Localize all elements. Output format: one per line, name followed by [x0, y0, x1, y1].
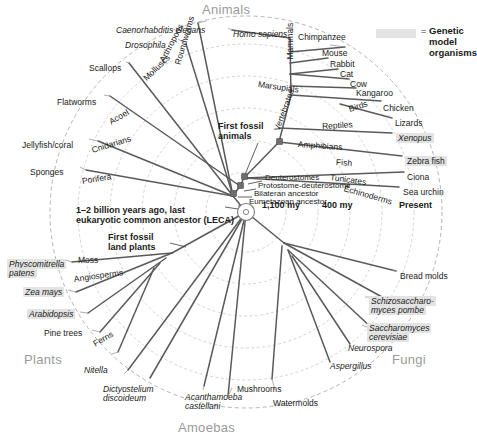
annotation-line-2: land plants — [108, 243, 156, 253]
tip-text: Flatworms — [57, 97, 96, 107]
tip-text: Arabidopsis — [27, 309, 75, 319]
tip-label-pine-trees: Pine trees — [44, 329, 82, 338]
branch-name-neurospora: Neurospora — [348, 344, 392, 353]
tip-line-1: Drosophila — [125, 41, 166, 50]
tip-text: Drosophila — [125, 40, 166, 50]
tip-line-1: Homo sapiens — [233, 30, 287, 39]
tip-text: Cat — [340, 69, 353, 79]
tip-line-1: Nitella — [84, 366, 108, 375]
tip-text: patens — [7, 268, 37, 278]
tip-label-lizards: Lizards — [395, 119, 422, 128]
tip-line-1: Ciona — [407, 173, 429, 182]
tip-label-caenorhabditis-elegans: Caenorhabditis elegans — [116, 26, 205, 35]
tip-label-physcomitrella: Physcomitrellapatens — [7, 260, 66, 278]
tip-line-2: castellani — [185, 402, 242, 411]
tip-label-scallops: Scallops — [89, 64, 121, 73]
tip-label-sponges: Sponges — [30, 168, 64, 177]
tip-line-1: Zea mays — [23, 288, 64, 297]
tip-text: Lizards — [395, 118, 422, 128]
tip-text: Mouse — [322, 48, 348, 58]
tip-text: Sponges — [30, 167, 64, 177]
legend-text: Genetic model organisms — [429, 25, 477, 59]
branch-name-mammals: Mammals — [286, 23, 295, 60]
tip-line-1: Rabbit — [330, 60, 355, 69]
time-label-present: Present — [399, 201, 432, 211]
tip-label-flatworms: Flatworms — [57, 98, 96, 107]
tip-label-jellyfish-coral: Jellyfish/coral — [22, 141, 73, 150]
tip-line-1: Lizards — [395, 119, 422, 128]
tip-line-1: Bread molds — [400, 272, 448, 281]
annotation-first-fossil-animals: First fossil animals — [218, 122, 264, 141]
tip-text: cerevisiae — [367, 332, 409, 342]
tip-label-schizosaccharo-: Schizosaccharo-myces pombe — [369, 297, 436, 315]
tip-label-chicken: Chicken — [383, 104, 414, 113]
tip-label-chimpanzee: Chimpanzee — [298, 33, 346, 42]
tip-label-mouse: Mouse — [322, 49, 348, 58]
branch-name-fish: Fish — [336, 158, 353, 168]
tip-text: castellani — [185, 401, 220, 411]
tip-label-zea-mays: Zea mays — [23, 288, 64, 297]
tip-line-1: Zebra fish — [405, 157, 447, 166]
branch-name-watermolds: Watermolds — [273, 399, 318, 408]
tip-line-2: patens — [7, 269, 66, 278]
tip-label-cat: Cat — [340, 70, 353, 79]
tip-text: Jellyfish/coral — [22, 140, 73, 150]
annotation-line-2: eukaryotic common ancestor (LECA) — [76, 216, 234, 226]
tip-line-1: Mouse — [322, 49, 348, 58]
annotation-leca: 1–2 billion years ago, last eukaryotic c… — [76, 206, 234, 225]
kingdom-label-plants: Plants — [24, 352, 62, 367]
legend-line-1: Genetic model — [429, 25, 477, 47]
tip-line-1: Pine trees — [44, 329, 82, 338]
tip-line-1: Xenopus — [396, 134, 434, 143]
tip-text: Homo sapiens — [233, 29, 287, 39]
tip-line-1: Jellyfish/coral — [22, 141, 73, 150]
tip-text: discoideum — [103, 393, 146, 403]
branch-name-aspergillus: Aspergillus — [330, 362, 372, 371]
tip-text: Bread molds — [400, 271, 448, 281]
branch-name-mushrooms: Mushrooms — [237, 385, 281, 394]
legend-line-2: organisms — [429, 47, 477, 58]
tip-text: Sea urchin — [403, 187, 444, 197]
tip-text: Ciona — [407, 172, 429, 182]
tip-text: Kangaroo — [356, 88, 393, 98]
tip-text: Chimpanzee — [298, 32, 346, 42]
tip-line-1: Arabidopsis — [27, 310, 75, 319]
tip-label-dictyostelium: Dictyosteliumdiscoideum — [103, 385, 154, 403]
annotation-leaders — [170, 143, 262, 247]
tip-line-1: Sea urchin — [403, 188, 444, 197]
tip-text: myces pombe — [369, 305, 426, 315]
tip-text: Rabbit — [330, 59, 355, 69]
tip-text: Chicken — [383, 103, 414, 113]
legend-equals-sign: = — [421, 26, 426, 36]
kingdom-label-amoebas: Amoebas — [178, 420, 235, 435]
tip-label-saccharomyces: Saccharomycescerevisiae — [367, 324, 431, 342]
tip-label-acanthamoeba: Acanthamoebacastellani — [185, 393, 242, 411]
tip-line-1: Caenorhabditis elegans — [116, 26, 205, 35]
tip-label-bread-molds: Bread molds — [400, 272, 448, 281]
branch-name-reptiles: Reptiles — [322, 120, 353, 131]
tip-line-2: cerevisiae — [367, 333, 431, 342]
tip-line-1: Kangaroo — [356, 89, 393, 98]
tip-label-nitella: Nitella — [84, 366, 108, 375]
tip-text: Nitella — [84, 365, 108, 375]
tip-label-sea-urchin: Sea urchin — [403, 188, 444, 197]
tip-label-zebra-fish: Zebra fish — [405, 157, 447, 166]
tip-text: Xenopus — [396, 133, 434, 143]
tip-line-1: Cat — [340, 70, 353, 79]
annotation-first-fossil-land-plants: First fossil land plants — [108, 233, 156, 252]
tip-label-ciona: Ciona — [407, 173, 429, 182]
tip-line-1: Chicken — [383, 104, 414, 113]
tip-text: Scallops — [89, 63, 121, 73]
tip-text: Pine trees — [44, 328, 82, 338]
tip-label-xenopus: Xenopus — [396, 134, 434, 143]
tip-line-1: Sponges — [30, 168, 64, 177]
branch-name-moss: Moss — [78, 256, 98, 265]
node-label-eumetazoan-ancestor: Eumetazoan ancestor — [249, 198, 327, 207]
tip-line-2: myces pombe — [369, 306, 436, 315]
tip-label-drosophila: Drosophila — [125, 41, 166, 50]
kingdom-label-fungi: Fungi — [392, 352, 426, 367]
tip-label-homo-sapiens: Homo sapiens — [233, 30, 287, 39]
tip-line-1: Scallops — [89, 64, 121, 73]
tip-label-kangaroo: Kangaroo — [356, 89, 393, 98]
tip-text: Zebra fish — [405, 156, 447, 166]
